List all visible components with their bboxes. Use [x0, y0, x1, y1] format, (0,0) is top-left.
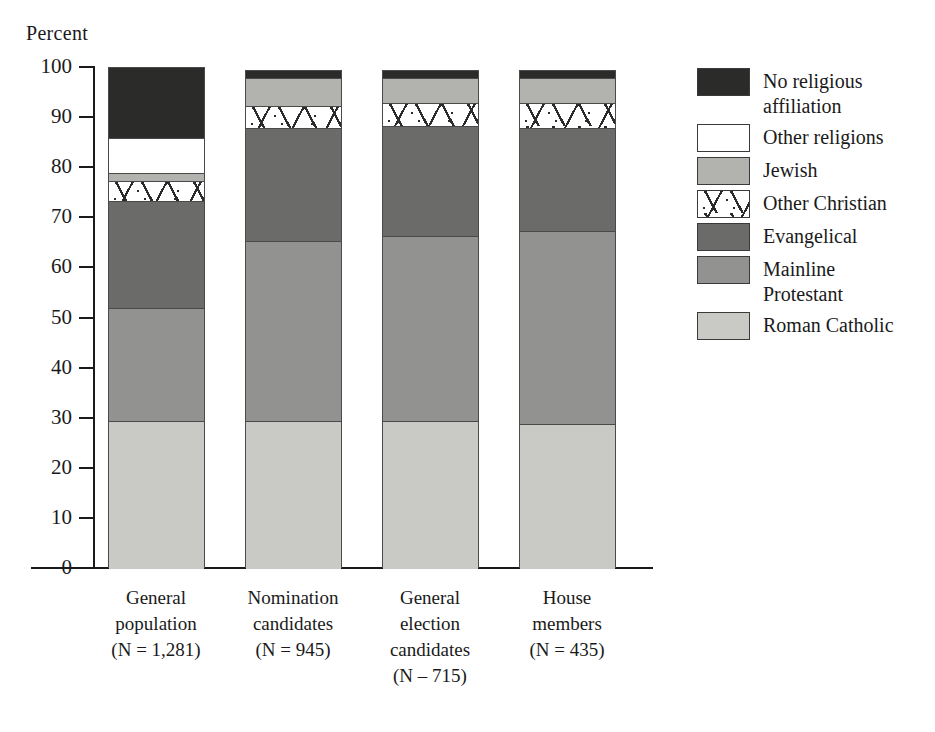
category-label-line: population [81, 611, 231, 637]
chart-legend: No religious affiliationOther religionsJ… [697, 68, 929, 345]
bar-nomination-candidates[interactable] [245, 70, 342, 568]
legend-label-other-christian: Other Christian [763, 190, 887, 216]
segment-other-christian[interactable] [383, 103, 478, 126]
segment-other-christian[interactable] [520, 103, 615, 128]
y-tick-90 [79, 116, 94, 118]
category-label-line: (N = 435) [492, 637, 642, 663]
segment-mainline-protestant[interactable] [109, 308, 204, 421]
category-label-line: (N = 945) [218, 637, 368, 663]
legend-item-roman-catholic[interactable]: Roman Catholic [697, 312, 929, 340]
category-label-line: members [492, 611, 642, 637]
segment-other-christian[interactable] [109, 181, 204, 201]
legend-label-other-religions: Other religions [763, 124, 884, 150]
legend-item-evangelical[interactable]: Evangelical [697, 223, 929, 251]
y-tick-80 [79, 166, 94, 168]
segment-jewish[interactable] [246, 78, 341, 106]
category-label-line: House [492, 585, 642, 611]
legend-swatch-other-christian [697, 190, 750, 218]
category-label-nomination-candidates: Nominationcandidates(N = 945) [218, 585, 368, 663]
legend-item-jewish[interactable]: Jewish [697, 157, 929, 185]
y-tick-label-text: 50 [14, 307, 72, 328]
y-tick-label-text: 20 [14, 457, 72, 478]
category-label-general-election-candidates: Generalelectioncandidates(N – 715) [355, 585, 505, 689]
y-tick-label-text: 100 [14, 56, 72, 77]
legend-item-other-christian[interactable]: Other Christian [697, 190, 929, 218]
category-label-line: candidates [355, 637, 505, 663]
legend-swatch-other-religions [697, 124, 750, 152]
segment-jewish[interactable] [109, 173, 204, 181]
segment-evangelical[interactable] [520, 128, 615, 231]
segment-mainline-protestant[interactable] [383, 236, 478, 421]
legend-swatch-jewish [697, 157, 750, 185]
legend-label-roman-catholic: Roman Catholic [763, 312, 894, 338]
segment-roman-catholic[interactable] [109, 421, 204, 569]
y-tick-label-text: 70 [14, 206, 72, 227]
legend-label-evangelical: Evangelical [763, 223, 857, 249]
y-tick-label-text: 10 [14, 507, 72, 528]
segment-evangelical[interactable] [246, 128, 341, 241]
segment-no-affiliation[interactable] [520, 71, 615, 79]
y-tick-30 [79, 417, 94, 419]
y-tick-70 [79, 216, 94, 218]
category-label-house-members: Housemembers(N = 435) [492, 585, 642, 663]
legend-swatch-evangelical [697, 223, 750, 251]
segment-other-religions[interactable] [109, 138, 204, 173]
segment-roman-catholic[interactable] [246, 421, 341, 569]
segment-evangelical[interactable] [383, 126, 478, 236]
legend-label-mainline-protestant: Mainline Protestant [763, 256, 843, 307]
segment-jewish[interactable] [520, 78, 615, 103]
segment-no-affiliation[interactable] [246, 71, 341, 79]
legend-label-jewish: Jewish [763, 157, 817, 183]
y-tick-label-text: 40 [14, 357, 72, 378]
segment-no-affiliation[interactable] [109, 68, 204, 138]
bar-general-population[interactable] [108, 67, 205, 568]
segment-other-christian[interactable] [246, 106, 341, 129]
segment-mainline-protestant[interactable] [246, 241, 341, 421]
segment-mainline-protestant[interactable] [520, 231, 615, 424]
legend-swatch-no-affiliation [697, 68, 750, 96]
y-tick-label-text: 30 [14, 407, 72, 428]
y-tick-0 [79, 567, 94, 569]
legend-item-mainline-protestant[interactable]: Mainline Protestant [697, 256, 929, 307]
y-tick-label-text: 0 [14, 557, 72, 578]
legend-label-no-affiliation: No religious affiliation [763, 68, 862, 119]
category-label-line: election [355, 611, 505, 637]
category-label-line: candidates [218, 611, 368, 637]
y-tick-label-text: 90 [14, 106, 72, 127]
segment-roman-catholic[interactable] [520, 424, 615, 569]
legend-item-no-affiliation[interactable]: No religious affiliation [697, 68, 929, 119]
legend-item-other-religions[interactable]: Other religions [697, 124, 929, 152]
y-tick-50 [79, 317, 94, 319]
category-label-line: (N – 715) [355, 663, 505, 689]
stacked-bar-chart: Percent 1009080706050403020100 Generalpo… [0, 0, 935, 732]
legend-swatch-mainline-protestant [697, 256, 750, 284]
segment-roman-catholic[interactable] [383, 421, 478, 569]
segment-jewish[interactable] [383, 78, 478, 103]
y-tick-label-text: 80 [14, 156, 72, 177]
y-tick-10 [79, 517, 94, 519]
y-tick-20 [79, 467, 94, 469]
category-label-line: General [355, 585, 505, 611]
category-label-line: (N = 1,281) [81, 637, 231, 663]
category-label-general-population: Generalpopulation(N = 1,281) [81, 585, 231, 663]
legend-swatch-roman-catholic [697, 312, 750, 340]
bar-general-election-candidates[interactable] [382, 70, 479, 568]
y-tick-40 [79, 367, 94, 369]
y-tick-label-text: 60 [14, 256, 72, 277]
y-tick-100 [79, 66, 94, 68]
category-label-line: General [81, 585, 231, 611]
bar-house-members[interactable] [519, 70, 616, 568]
category-label-line: Nomination [218, 585, 368, 611]
segment-no-affiliation[interactable] [383, 71, 478, 79]
y-tick-60 [79, 266, 94, 268]
segment-evangelical[interactable] [109, 201, 204, 309]
